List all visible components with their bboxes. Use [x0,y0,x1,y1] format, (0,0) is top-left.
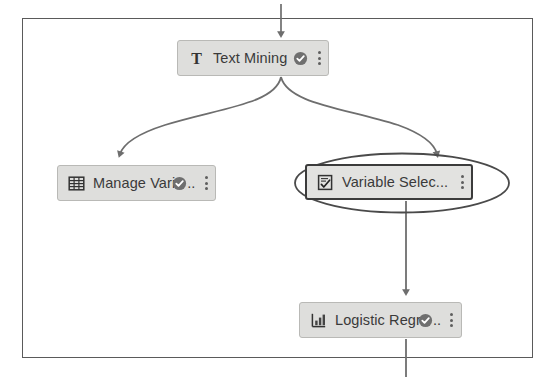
node-menu-icon[interactable] [317,50,321,67]
node-label: Text Mining [213,51,287,66]
node-label: Manage Vari [93,176,175,191]
node-label-ellipsis: .. [187,176,195,191]
node-label: Logistic Regr [335,313,421,328]
table-grid-icon [67,174,86,193]
node-text-mining[interactable]: T Text Mining [177,40,329,76]
bar-chart-icon [309,311,328,330]
check-badge-icon [418,313,433,328]
check-badge-icon [293,51,308,66]
node-menu-icon[interactable] [204,175,208,192]
text-t-icon: T [187,49,206,68]
node-variable-selection[interactable]: Variable Selec... [305,164,473,200]
node-manage-variables[interactable]: Manage Vari .. [57,165,216,201]
node-menu-icon[interactable] [460,174,464,191]
node-label: Variable Selec... [342,175,448,190]
svg-text:T: T [191,50,202,67]
node-logistic-regression[interactable]: Logistic Regr .. [299,302,462,338]
document-check-icon [316,173,335,192]
check-badge-icon [172,176,187,191]
node-menu-icon[interactable] [450,312,454,329]
node-label-ellipsis: .. [433,313,441,328]
